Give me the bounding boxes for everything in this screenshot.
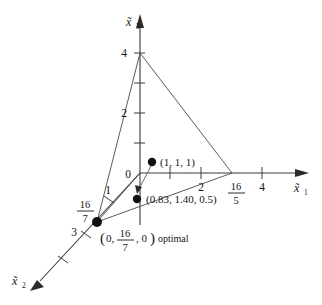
iteration-arrow	[135, 166, 151, 194]
ticklabel-x3-2: 2	[121, 107, 127, 119]
point-optimal-dot[interactable]	[92, 217, 102, 227]
label-optimal-close-paren: )	[150, 230, 155, 247]
axis-x2-line	[40, 173, 140, 281]
ticklabel-x1-4: 4	[259, 181, 265, 193]
ticklabel-x2-3: 3	[71, 226, 77, 238]
axis-x1-label: x̃ 1	[293, 181, 308, 197]
tick-x2-1	[104, 196, 114, 203]
label-x1-fraction-denominator: 5	[233, 195, 238, 206]
iteration-arrow-head	[135, 185, 142, 194]
label-point-start: (1, 1, 1)	[160, 156, 195, 169]
label-x1-fraction-numerator: 16	[231, 181, 242, 192]
axis-x3-label-text: x̃	[125, 15, 132, 29]
label-x2-fraction-denominator: 7	[82, 213, 87, 224]
point-start-dot[interactable]	[148, 158, 156, 166]
axis-x1	[140, 167, 309, 179]
ticklabel-x2-1: 1	[105, 184, 111, 196]
axis-x1-label-text: x̃	[293, 181, 300, 195]
axis-x3	[134, 14, 145, 225]
axis-x1-label-subscript: 1	[304, 188, 308, 197]
label-point-iterate: (0.83, 1.40, 0.5)	[146, 193, 217, 206]
figure-canvas: x̃ 3 x̃ 1 x̃ 2 4 2 0 2 4 1 3 16 5 16 7 (…	[0, 0, 322, 305]
axis-x2-arrowhead	[30, 280, 44, 291]
label-x1-sixteen-fifths: 16 5	[228, 181, 245, 206]
ticklabel-x1-2: 2	[198, 181, 204, 193]
ticklabel-origin: 0	[125, 168, 131, 180]
coordinate-plot: x̃ 3 x̃ 1 x̃ 2 4 2 0 2 4 1 3 16 5 16 7 (…	[0, 0, 322, 305]
edge-apex-to-x1vertex	[140, 53, 232, 173]
label-optimal-fraction-numerator: 16	[120, 228, 131, 239]
axis-x1-arrowhead	[295, 169, 309, 177]
iteration-arrow-shaft	[139, 166, 151, 189]
label-optimal-open-paren: (	[100, 230, 105, 247]
label-optimal-prefix: 0,	[106, 232, 115, 244]
axis-x2-label: x̃ 2	[11, 274, 26, 290]
label-optimal-suffix: , 0	[136, 232, 148, 244]
ticklabel-x3-4: 4	[121, 47, 127, 59]
point-iterate-dot[interactable]	[133, 195, 141, 203]
axis-x2-label-text: x̃	[11, 274, 18, 288]
label-x2-sixteen-sevenths: 16 7	[77, 199, 94, 224]
axis-x3-label: x̃ 3	[125, 15, 140, 31]
label-point-optimal: ( 0, 16 7 , 0 ) optimal	[100, 228, 189, 253]
axis-x2-label-subscript: 2	[22, 281, 26, 290]
label-x2-fraction-numerator: 16	[80, 199, 91, 210]
label-optimal-note: optimal	[158, 233, 189, 244]
axis-x3-label-subscript: 3	[136, 22, 140, 31]
label-optimal-fraction-denominator: 7	[122, 242, 127, 253]
